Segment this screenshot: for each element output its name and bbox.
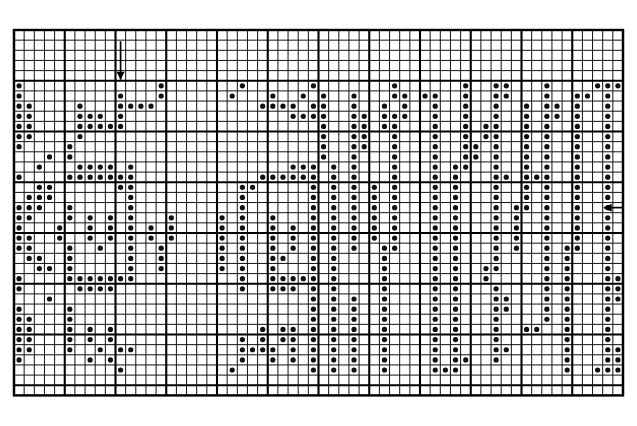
stitch-dot (128, 164, 133, 169)
stitch-dot (291, 276, 296, 281)
stitch-dot (311, 367, 316, 372)
stitch-dot (494, 347, 499, 352)
stitch-dot (605, 317, 610, 322)
stitch-dot (128, 256, 133, 261)
stitch-dot (382, 124, 387, 129)
stitch-dot (483, 134, 488, 139)
stitch-dot (605, 337, 610, 342)
stitch-dot (463, 93, 468, 98)
stitch-dot (159, 83, 164, 88)
stitch-dot (88, 327, 93, 332)
stitch-dot (544, 256, 549, 261)
stitch-dot (565, 317, 570, 322)
stitch-dot (77, 124, 82, 129)
stitch-dot (128, 175, 133, 180)
stitch-dot (108, 276, 113, 281)
stitch-dot (433, 246, 438, 251)
stitch-dot (351, 367, 356, 372)
stitch-dot (494, 114, 499, 119)
stitch-dot (372, 215, 377, 220)
stitch-dot (77, 276, 82, 281)
stitch-dot (392, 154, 397, 159)
stitch-dot (301, 175, 306, 180)
stitch-dot (331, 256, 336, 261)
stitch-dot (311, 205, 316, 210)
stitch-dot (494, 124, 499, 129)
stitch-dot (494, 175, 499, 180)
stitch-dot (453, 296, 458, 301)
stitch-dot (88, 124, 93, 129)
stitch-dot (128, 225, 133, 230)
stitch-dot (382, 367, 387, 372)
stitch-dot (453, 367, 458, 372)
stitch-dot (544, 266, 549, 271)
stitch-dot (16, 93, 21, 98)
stitch-dot (575, 134, 580, 139)
stitch-dot (524, 124, 529, 129)
stitch-dot (534, 175, 539, 180)
stitch-dot (27, 327, 32, 332)
stitch-dot (108, 215, 113, 220)
stitch-dot (331, 347, 336, 352)
stitch-dot (331, 205, 336, 210)
stitch-dot (524, 154, 529, 159)
stitch-dot (565, 357, 570, 362)
stitch-dot (250, 185, 255, 190)
stitch-dot (118, 104, 123, 109)
stitch-dot (494, 225, 499, 230)
stitch-dot (270, 246, 275, 251)
stitch-dot (494, 327, 499, 332)
stitch-dot (67, 175, 72, 180)
stitch-dot (453, 175, 458, 180)
stitch-dot (118, 185, 123, 190)
stitch-dot (565, 256, 570, 261)
stitch-dot (240, 205, 245, 210)
stitch-dot (494, 337, 499, 342)
stitch-dot (331, 225, 336, 230)
stitch-dot (433, 144, 438, 149)
stitch-dot (128, 246, 133, 251)
stitch-dot (463, 83, 468, 88)
stitch-dot (331, 164, 336, 169)
stitch-dot (270, 104, 275, 109)
pattern-chart (0, 0, 637, 426)
stitch-dot (382, 296, 387, 301)
stitch-dot (128, 215, 133, 220)
stitch-dot (534, 327, 539, 332)
stitch-dot (605, 225, 610, 230)
stitch-dot (280, 104, 285, 109)
stitch-dot (544, 246, 549, 251)
stitch-dot (351, 124, 356, 129)
stitch-dot (291, 347, 296, 352)
stitch-dot (605, 347, 610, 352)
stitch-dot (291, 235, 296, 240)
stitch-dot (108, 357, 113, 362)
stitch-dot (382, 307, 387, 312)
stitch-dot (16, 124, 21, 129)
stitch-dot (382, 286, 387, 291)
stitch-dot (362, 114, 367, 119)
stitch-dot (483, 124, 488, 129)
stitch-dot (311, 175, 316, 180)
stitch-dot (382, 276, 387, 281)
stitch-dot (585, 93, 590, 98)
stitch-dot (595, 83, 600, 88)
stitch-dot (118, 175, 123, 180)
stitch-dot (494, 246, 499, 251)
stitch-dot (351, 185, 356, 190)
stitch-dot (605, 104, 610, 109)
stitch-dot (544, 286, 549, 291)
stitch-dot (514, 225, 519, 230)
stitch-dot (544, 205, 549, 210)
stitch-dot (433, 134, 438, 139)
stitch-dot (605, 154, 610, 159)
stitch-dot (270, 357, 275, 362)
stitch-dot (433, 205, 438, 210)
stitch-dot (311, 357, 316, 362)
stitch-dot (392, 93, 397, 98)
stitch-dot (270, 286, 275, 291)
stitch-dot (311, 215, 316, 220)
stitch-dot (554, 114, 559, 119)
stitch-dot (331, 185, 336, 190)
stitch-dot (67, 256, 72, 261)
